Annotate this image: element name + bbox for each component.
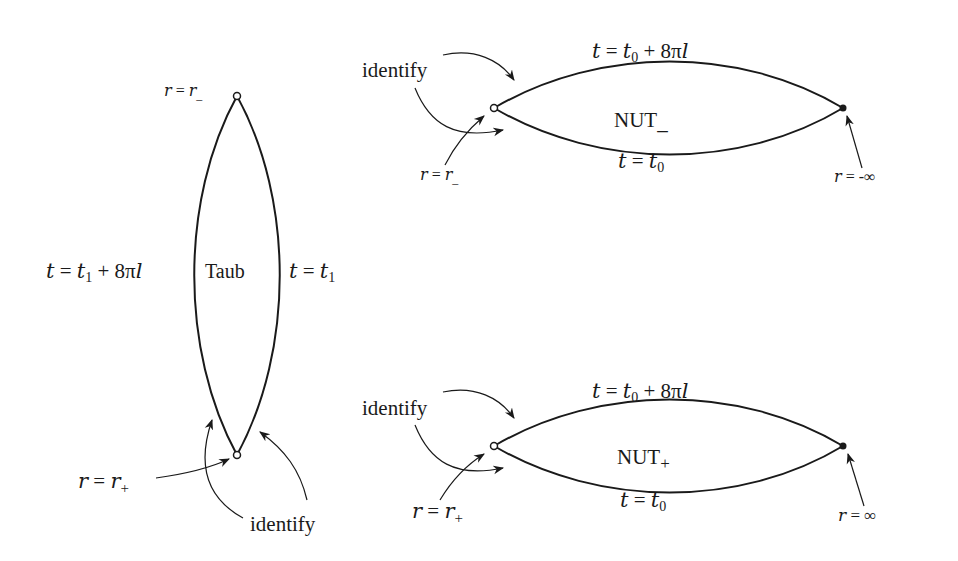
nut-minus-identify-label: identify <box>362 58 428 82</box>
nut-plus-identify-arrow-bottom <box>415 425 503 471</box>
taub-diagram: r = r_ Taub t = t1 + 8πl t = t1 r = r+ i… <box>46 81 335 536</box>
nut-plus-identify-label: identify <box>362 396 428 420</box>
nut-minus-r-arrow <box>445 116 484 165</box>
nut-minus-r-inf-arrow <box>847 116 862 168</box>
taub-region-label: Taub <box>205 260 245 282</box>
taub-identify-arrow-left <box>205 420 243 518</box>
nut-plus-right-point-label: r = ∞ <box>838 505 876 525</box>
nut-minus-top-boundary <box>494 62 843 109</box>
nut-minus-region-label: NUT_ <box>614 108 668 134</box>
nut-plus-region-label: NUT+ <box>617 445 670 473</box>
nut-minus-left-point <box>491 105 498 112</box>
taub-bottom-point <box>234 452 241 459</box>
taub-right-edge-label: t = t1 <box>289 259 335 285</box>
nut-plus-top-boundary <box>494 400 843 447</box>
nut-plus-identify-arrow-top <box>443 390 514 418</box>
taub-top-point <box>234 93 241 100</box>
nut-plus-r-inf-arrow <box>848 454 864 506</box>
taub-identify-arrow-right <box>260 432 307 500</box>
nut-plus-right-point <box>840 443 847 450</box>
diagram-canvas: r = r_ Taub t = t1 + 8πl t = t1 r = r+ i… <box>0 0 958 561</box>
nut-minus-right-point <box>840 105 847 112</box>
nut-plus-top-edge-label: t = t0 + 8πl <box>592 379 688 405</box>
taub-left-edge-label: t = t1 + 8πl <box>46 259 142 285</box>
nut-minus-right-point-label: r = -∞ <box>834 167 875 186</box>
nut-plus-diagram: NUT+ t = t0 + 8πl t = t0 identify r = r+… <box>362 379 876 526</box>
nut-plus-r-arrow <box>440 454 484 500</box>
taub-r-plus-arrow <box>156 459 229 478</box>
nut-minus-left-point-label: r = r_ <box>420 165 459 186</box>
taub-top-point-label: r = r_ <box>164 81 203 102</box>
nut-minus-bottom-edge-label: t = t0 <box>618 149 664 175</box>
taub-bottom-point-label: r = r+ <box>78 469 129 496</box>
nut-minus-identify-arrow-bottom <box>415 88 503 133</box>
nut-plus-left-point <box>491 443 498 450</box>
nut-minus-identify-arrow-top <box>443 53 514 80</box>
nut-plus-left-point-label: r = r+ <box>412 499 463 526</box>
nut-minus-bottom-boundary <box>494 108 843 155</box>
nut-minus-diagram: NUT_ t = t0 + 8πl t = t0 identify r = r_… <box>362 39 875 186</box>
nut-minus-top-edge-label: t = t0 + 8πl <box>592 39 688 65</box>
taub-identify-label: identify <box>250 512 316 536</box>
